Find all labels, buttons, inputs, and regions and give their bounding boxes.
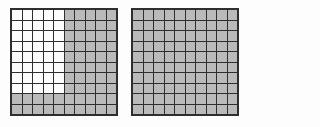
unshaded-grid-cell [33,21,43,31]
shaded-grid-cell [12,105,22,115]
shaded-grid-cell [133,105,143,115]
shaded-grid-cell [186,42,196,52]
shaded-grid-cell [133,31,143,41]
unshaded-grid-cell [44,52,54,62]
shaded-grid-cell [175,31,185,41]
shaded-grid-cell [154,42,164,52]
unshaded-grid-cell [44,10,54,20]
unshaded-grid-cell [44,42,54,52]
shaded-grid-cell [144,73,154,83]
unshaded-grid-cell [54,10,64,20]
shaded-grid-cell [186,84,196,94]
unshaded-grid-cell [44,73,54,83]
left-hundred-grid [10,8,118,116]
shaded-grid-cell [75,73,85,83]
shaded-grid-cell [217,63,227,73]
shaded-grid-cell [107,42,117,52]
unshaded-grid-cell [33,63,43,73]
shaded-grid-cell [65,73,75,83]
shaded-grid-cell [96,10,106,20]
shaded-grid-cell [154,105,164,115]
shaded-grid-cell [144,94,154,104]
shaded-grid-cell [196,84,206,94]
shaded-grid-cell [107,63,117,73]
unshaded-grid-cell [54,21,64,31]
shaded-grid-cell [144,63,154,73]
shaded-grid-cell [217,84,227,94]
unshaded-grid-cell [54,73,64,83]
shaded-grid-cell [144,31,154,41]
shaded-grid-cell [65,105,75,115]
unshaded-grid-cell [54,63,64,73]
shaded-grid-cell [196,94,206,104]
shaded-grid-cell [228,10,238,20]
unshaded-grid-cell [12,84,22,94]
shaded-grid-cell [207,10,217,20]
shaded-grid-cell [175,94,185,104]
shaded-grid-cell [107,73,117,83]
unshaded-grid-cell [33,31,43,41]
shaded-grid-cell [144,52,154,62]
shaded-grid-cell [65,84,75,94]
shaded-grid-cell [75,63,85,73]
shaded-grid-cell [196,73,206,83]
shaded-grid-cell [75,42,85,52]
shaded-grid-cell [217,31,227,41]
shaded-grid-cell [65,63,75,73]
shaded-grid-cell [165,31,175,41]
unshaded-grid-cell [23,52,33,62]
shaded-grid-cell [165,10,175,20]
unshaded-grid-cell [54,42,64,52]
shaded-grid-cell [86,52,96,62]
shaded-grid-cell [175,63,185,73]
unshaded-grid-cell [23,84,33,94]
shaded-grid-cell [96,63,106,73]
shaded-grid-cell [44,105,54,115]
shaded-grid-cell [107,10,117,20]
unshaded-grid-cell [12,52,22,62]
shaded-grid-cell [154,21,164,31]
shaded-grid-cell [133,94,143,104]
shaded-grid-cell [54,105,64,115]
unshaded-grid-cell [12,10,22,20]
shaded-grid-cell [228,94,238,104]
unshaded-grid-cell [12,31,22,41]
shaded-grid-cell [165,105,175,115]
shaded-grid-cell [165,21,175,31]
shaded-grid-cell [196,31,206,41]
unshaded-grid-cell [23,31,33,41]
shaded-grid-cell [33,105,43,115]
shaded-grid-cell [186,73,196,83]
shaded-grid-cell [86,73,96,83]
shaded-grid-cell [154,94,164,104]
shaded-grid-cell [75,105,85,115]
shaded-grid-cell [228,105,238,115]
shaded-grid-cell [133,10,143,20]
shaded-grid-cell [228,21,238,31]
shaded-grid-cell [154,63,164,73]
shaded-grid-cell [196,21,206,31]
shaded-grid-cell [75,52,85,62]
shaded-grid-cell [107,105,117,115]
grids-row [10,8,239,116]
unshaded-grid-cell [23,63,33,73]
shaded-grid-cell [207,63,217,73]
shaded-grid-cell [96,31,106,41]
unshaded-grid-cell [33,10,43,20]
shaded-grid-cell [86,63,96,73]
figure-canvas [0,0,249,127]
shaded-grid-cell [175,52,185,62]
shaded-grid-cell [165,63,175,73]
shaded-grid-cell [65,21,75,31]
shaded-grid-cell [175,105,185,115]
shaded-grid-cell [54,94,64,104]
shaded-grid-cell [65,94,75,104]
shaded-grid-cell [186,10,196,20]
shaded-grid-cell [196,10,206,20]
shaded-grid-cell [75,10,85,20]
shaded-grid-cell [75,84,85,94]
shaded-grid-cell [217,21,227,31]
shaded-grid-cell [96,73,106,83]
shaded-grid-cell [144,42,154,52]
shaded-grid-cell [165,73,175,83]
